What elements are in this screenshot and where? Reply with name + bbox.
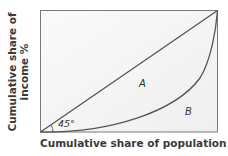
area-a-label: A (139, 78, 146, 89)
y-axis-label: Cumulative share of income % (0, 10, 36, 134)
y-axis-label-line2: income % (18, 12, 30, 131)
angle-label: 45° (58, 118, 75, 129)
y-axis-label-line1: Cumulative share of (6, 12, 18, 131)
area-b-label: B (185, 106, 192, 117)
x-axis-label: Cumulative share of population % (40, 137, 220, 149)
